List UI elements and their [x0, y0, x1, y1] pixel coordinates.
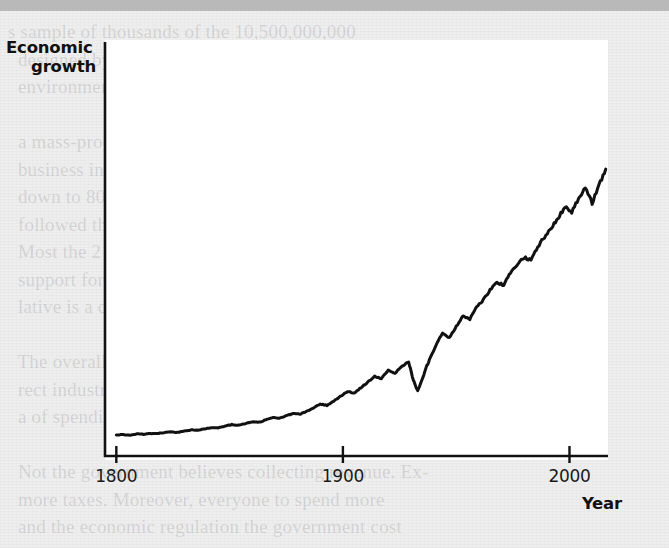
x-axis-ticks [116, 446, 569, 463]
axes-group [104, 42, 608, 457]
x-tick-label-0: 1800 [81, 466, 151, 486]
x-tick-label-1: 1900 [308, 466, 378, 486]
data-series-group [116, 169, 605, 435]
x-tick-label-2: 2000 [534, 466, 604, 486]
data-line-0 [116, 169, 605, 435]
figure-container: s sample of thousands of the 10,500,000,… [0, 0, 669, 548]
